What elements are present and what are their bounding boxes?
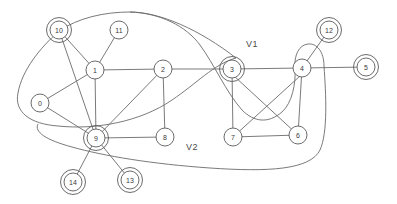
node-14[interactable]: 14 [61,170,86,195]
edge-3-4 [232,68,302,69]
node-label: 9 [94,135,98,142]
node-6[interactable]: 6 [289,126,307,144]
edge-3-6 [234,76,298,135]
node-label: 14 [69,179,77,186]
node-3[interactable]: 3 [220,57,245,82]
node-9[interactable]: 9 [84,126,109,151]
node-label: 5 [364,64,368,71]
region-label-v2: V2 [186,142,198,152]
edge-3-7 [232,69,233,137]
edge-8-9 [96,137,165,138]
node-7[interactable]: 7 [224,128,242,146]
graph-svg: 01234567891011121314 V1 V2 [0,0,397,204]
node-label: 7 [231,134,235,141]
node-label: 4 [300,65,304,72]
edge-0-1 [40,70,95,103]
node-5[interactable]: 5 [354,55,379,80]
node-11[interactable]: 11 [110,21,128,39]
edge-0-9 [40,103,96,138]
node-label: 12 [325,27,333,34]
edge-1-2 [95,69,163,70]
node-12[interactable]: 12 [317,18,342,43]
node-13[interactable]: 13 [118,168,143,193]
edge-10-9 [59,30,96,138]
edge-1-9 [95,70,96,138]
diagram-canvas: 01234567891011121314 V1 V2 [0,0,397,204]
node-label: 6 [296,132,300,139]
node-label: 2 [161,66,165,73]
node-10[interactable]: 10 [47,18,72,43]
node-1[interactable]: 1 [86,61,104,79]
node-label: 13 [126,177,134,184]
edge-group [40,30,366,182]
node-label: 0 [38,100,42,107]
edge-2-9 [96,69,163,138]
node-8[interactable]: 8 [156,128,174,146]
node-label: 11 [115,27,122,34]
edge-4-5 [302,67,366,68]
node-label: 1 [93,67,97,74]
node-2[interactable]: 2 [154,60,172,78]
node-label: 3 [230,66,234,73]
region-label-v1: V1 [246,39,258,49]
edge-7-6 [233,135,298,137]
node-0[interactable]: 0 [31,94,49,112]
region-boundary-v2 [37,66,326,170]
node-label: 8 [163,134,167,141]
node-label: 10 [55,27,63,34]
edge-4-6 [298,68,302,135]
node-4[interactable]: 4 [293,59,311,77]
edge-2-8 [163,69,165,137]
